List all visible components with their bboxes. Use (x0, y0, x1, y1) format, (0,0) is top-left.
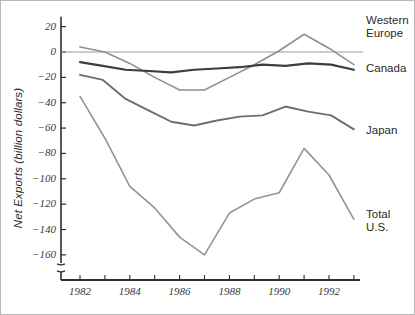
y-tick-label: 0 (10, 45, 56, 57)
series-line-western-europe (80, 34, 354, 90)
y-tick-label: −100 (10, 172, 56, 184)
axes-group (57, 17, 363, 280)
series-line-canada (80, 62, 354, 72)
y-tick-label: −160 (10, 248, 56, 260)
x-tick-label: 1986 (156, 285, 204, 297)
series-group (80, 34, 354, 255)
series-label-japan: Japan (366, 124, 397, 137)
y-tick-label: −120 (10, 197, 56, 209)
y-tick-label: −40 (10, 96, 56, 108)
x-tick-label: 1988 (205, 285, 253, 297)
series-label-total-u-s: Total U.S. (366, 208, 415, 234)
y-tick-label: 20 (10, 20, 56, 32)
series-label-western-europe: Western Europe (366, 14, 409, 40)
y-tick-label: −20 (10, 70, 56, 82)
x-tick-label: 1992 (305, 285, 353, 297)
y-tick-label: −140 (10, 223, 56, 235)
x-tick-label: 1990 (255, 285, 303, 297)
x-tick-label: 1982 (56, 285, 104, 297)
chart-figure: Net Exports (billion dollars) 200−20−40−… (0, 0, 415, 315)
y-tick-label: −80 (10, 146, 56, 158)
y-tick-label: −60 (10, 121, 56, 133)
line-chart-plot (0, 0, 415, 315)
series-label-canada: Canada (366, 62, 406, 75)
x-tick-label: 1984 (106, 285, 154, 297)
